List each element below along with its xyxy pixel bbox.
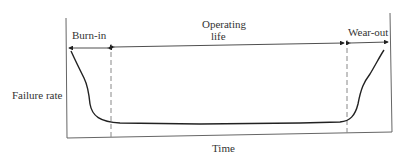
wear-out-label: Wear-out: [348, 26, 388, 38]
failure-rate-curve: [71, 50, 384, 124]
right-boundary: [390, 13, 392, 132]
bathtub-diagram: [0, 0, 401, 161]
x-axis: [67, 132, 392, 138]
wear-out-arrow: [350, 42, 388, 43]
operating-life-label-line1: Operating: [202, 18, 246, 30]
y-axis: [66, 18, 67, 138]
operating-life-label-line2: life: [211, 30, 226, 42]
operating-life-arrow: [114, 43, 344, 47]
y-axis-label: Failure rate: [12, 89, 62, 101]
x-axis-label: Time: [212, 142, 235, 154]
burn-in-label: Burn-in: [72, 29, 106, 41]
